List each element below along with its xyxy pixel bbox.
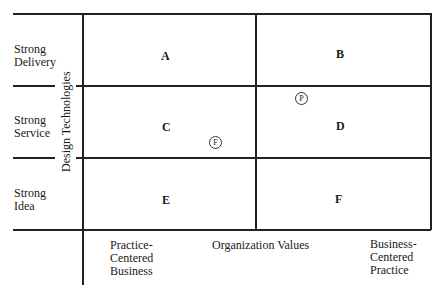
cell-e: E <box>162 193 170 208</box>
x-axis-label: Organization Values <box>212 239 309 252</box>
y-axis-line <box>82 13 84 285</box>
row-label-line: Idea <box>14 200 46 213</box>
marker-p-icon: P <box>295 92 308 105</box>
bottom-border <box>13 229 431 231</box>
column-label-business-centered-practice: Business- Centered Practice <box>370 238 417 277</box>
row-label-strong-service: Strong Service <box>14 114 50 140</box>
cell-f: F <box>335 192 342 207</box>
column-label-line: Practice <box>370 264 417 277</box>
right-border <box>430 13 432 230</box>
cell-b: B <box>336 47 344 62</box>
row-label-strong-idea: Strong Idea <box>14 187 46 213</box>
row-divider-1 <box>13 85 55 87</box>
column-label-line: Business <box>110 265 153 278</box>
column-label-practice-centered-business: Practice- Centered Business <box>110 239 153 278</box>
column-divider <box>255 13 257 230</box>
cell-a: A <box>161 49 170 64</box>
y-axis-label: Design Technologies <box>59 71 74 172</box>
row-divider-2-grid <box>76 157 431 159</box>
marker-f-icon: F <box>209 136 222 149</box>
row-label-line: Delivery <box>14 56 56 69</box>
cell-d: D <box>336 119 345 134</box>
row-divider-1-grid <box>76 85 431 87</box>
row-label-line: Service <box>14 127 50 140</box>
row-divider-2 <box>13 157 55 159</box>
cell-c: C <box>162 120 171 135</box>
top-border <box>13 13 431 15</box>
row-label-strong-delivery: Strong Delivery <box>14 43 56 69</box>
